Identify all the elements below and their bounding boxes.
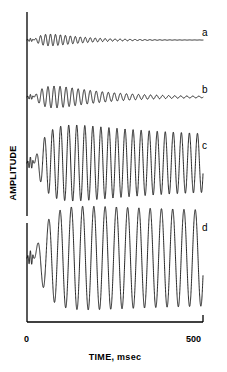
x-tick-label-max: 500 xyxy=(186,334,201,344)
trace-d xyxy=(27,206,203,310)
trace-label-a: a xyxy=(202,27,208,38)
trace-c xyxy=(27,125,203,201)
trace-label-d: d xyxy=(202,222,208,233)
trace-label-c: c xyxy=(202,140,207,151)
x-axis-label: TIME, msec xyxy=(60,352,170,362)
waveform-figure: AMPLITUDE TIME, msec 0 500 a b c d xyxy=(0,0,227,372)
y-axis-label: AMPLITUDE xyxy=(8,138,18,208)
trace-label-b: b xyxy=(202,84,208,95)
waveform-plot xyxy=(0,0,227,372)
trace-a xyxy=(27,34,203,46)
trace-group xyxy=(27,34,203,310)
trace-b xyxy=(27,86,203,108)
x-tick-label-min: 0 xyxy=(24,334,29,344)
